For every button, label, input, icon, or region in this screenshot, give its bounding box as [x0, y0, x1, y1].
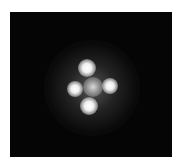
lensed-image-left [67, 81, 83, 97]
lensed-image-right [102, 78, 118, 94]
lensing-galaxy-center [83, 77, 103, 97]
astronomical-image [10, 12, 172, 157]
lensed-image-bottom [80, 97, 98, 115]
lensed-image-top [78, 59, 96, 77]
